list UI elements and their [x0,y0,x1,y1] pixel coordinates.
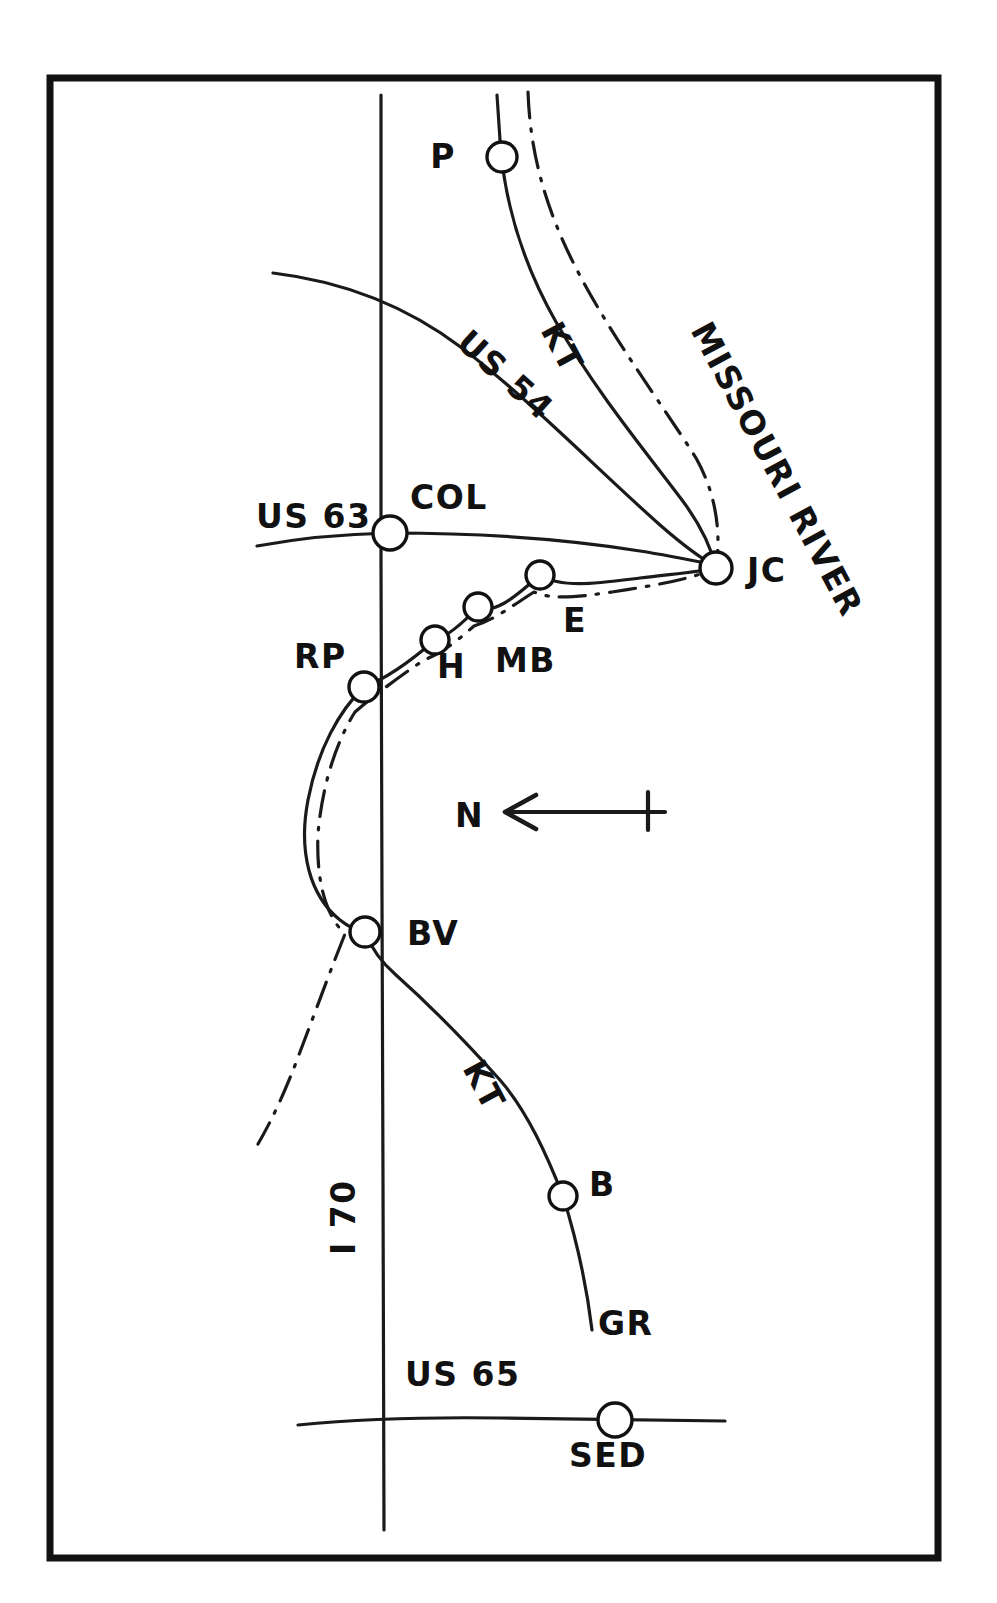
compass-north-label: N [455,796,484,835]
station-marker-sed[interactable] [598,1403,632,1437]
station-marker-rp[interactable] [349,672,379,702]
station-marker-bv[interactable] [350,917,380,947]
route-label-us65: US 65 [405,1355,520,1394]
station-label-mb: MB [495,641,556,680]
station-label-p: P [430,137,456,176]
station-marker-mb[interactable] [464,593,492,621]
station-marker-p[interactable] [487,142,517,172]
route-label-i70: I 70 [324,1179,363,1255]
station-label-h: H [437,647,466,686]
route-label-us63: US 63 [256,497,371,536]
map-root: MISSOURI RIVER KT US 54 US 63 KT I 70 GR… [0,0,997,1603]
station-marker-b[interactable] [549,1182,577,1210]
station-marker-e[interactable] [526,561,554,589]
station-label-rp: RP [294,637,347,676]
station-label-bv: BV [407,914,459,953]
station-marker-col[interactable] [373,516,407,550]
map-frame-border [50,78,938,1558]
station-label-b: B [589,1165,616,1204]
route-label-gr: GR [598,1304,654,1343]
station-marker-jc[interactable] [700,552,732,584]
hand-drawn-map-canvas: MISSOURI RIVER KT US 54 US 63 KT I 70 GR… [0,0,997,1603]
station-label-e: E [563,601,587,640]
station-label-sed: SED [569,1436,647,1475]
station-label-jc: JC [745,551,787,590]
station-label-col: COL [410,478,488,517]
